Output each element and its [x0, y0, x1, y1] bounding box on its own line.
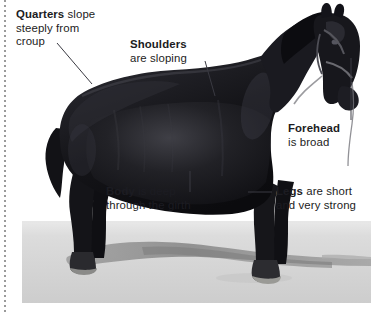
- callout-quarters: Quarters slope steeply from croup: [16, 8, 95, 49]
- horse-conformation-figure: Quarters slope steeply from croup Should…: [0, 0, 375, 313]
- callout-quarters-line3: croup: [16, 35, 95, 49]
- callout-legs: Legs are short and very strong: [276, 185, 356, 212]
- callout-quarters-term: Quarters: [16, 8, 64, 20]
- callout-legs-term: Legs: [276, 185, 303, 197]
- callout-quarters-line1: Quarters slope: [16, 8, 95, 22]
- callout-legs-line1: Legs are short: [276, 185, 356, 199]
- callout-body: Body is deep through the girth: [106, 185, 191, 212]
- callout-body-line2: through the girth: [106, 199, 191, 213]
- callout-forehead: Forehead is broad: [288, 122, 340, 149]
- callout-legs-line2: and very strong: [276, 199, 356, 213]
- callout-shoulders-term: Shoulders: [130, 38, 187, 50]
- callout-quarters-line1-rest: slope: [64, 8, 95, 20]
- callout-body-line1: Body is deep: [106, 185, 191, 199]
- callout-forehead-line2: is broad: [288, 136, 340, 150]
- callout-forehead-term: Forehead: [288, 122, 340, 134]
- callout-shoulders-line1: Shoulders: [130, 38, 187, 52]
- callout-legs-line1-rest: are short: [303, 185, 352, 197]
- callout-shoulders: Shoulders are sloping: [130, 38, 187, 65]
- callout-quarters-line2: steeply from: [16, 22, 95, 36]
- callout-forehead-line1: Forehead: [288, 122, 340, 136]
- dotted-margin-rule: [4, 0, 6, 313]
- callout-body-line1-rest: is deep: [135, 185, 176, 197]
- callout-shoulders-line2: are sloping: [130, 52, 187, 66]
- callout-body-term: Body: [106, 185, 135, 197]
